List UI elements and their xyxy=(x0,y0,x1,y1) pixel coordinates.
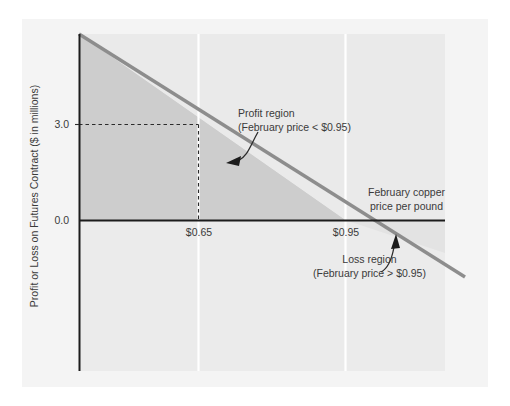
loss-region-annotation-line2: (February price > $0.95) xyxy=(313,267,426,281)
y-axis-title: Profit or Loss on Futures Contract ($ in… xyxy=(28,56,40,336)
profit-region-annotation-line2: (February price < $0.95) xyxy=(238,121,351,135)
y-tick-label-3-0: 3.0 xyxy=(38,118,69,130)
chart-figure: Profit or Loss on Futures Contract ($ in… xyxy=(0,0,510,406)
x-tick-label-065: $0.65 xyxy=(173,226,225,238)
loss-region-annotation-line1: Loss region xyxy=(313,253,426,267)
profit-region-annotation: Profit region (February price < $0.95) xyxy=(238,107,351,134)
x-tick-label-095: $0.95 xyxy=(320,226,372,238)
y-tick-label-0-0: 0.0 xyxy=(38,214,69,226)
x-axis-caption: February copper price per pound xyxy=(368,186,445,213)
profit-region-annotation-line1: Profit region xyxy=(238,107,351,121)
plot-area-lower-band xyxy=(79,220,445,371)
loss-region-annotation: Loss region (February price > $0.95) xyxy=(313,253,426,280)
x-axis-caption-line2: price per pound xyxy=(368,200,445,214)
x-axis-caption-line1: February copper xyxy=(368,186,445,200)
